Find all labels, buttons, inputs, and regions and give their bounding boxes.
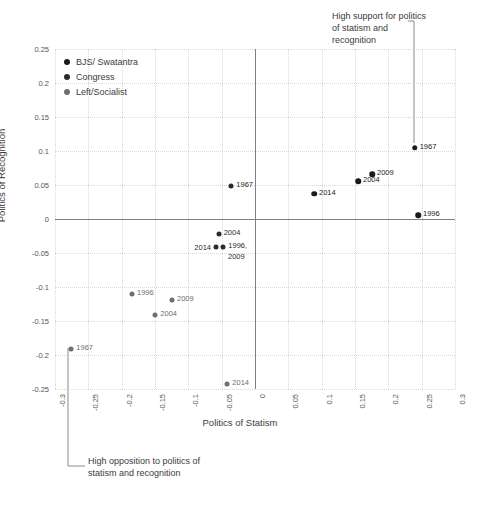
data-point-label: 2004 (363, 175, 380, 184)
x-tick-label: -0.1 (191, 394, 200, 407)
data-point[interactable] (415, 213, 421, 219)
data-point-label: 1967 (236, 180, 253, 189)
data-point-label: 1996 (137, 288, 154, 297)
y-tick-label: -0.1 (36, 283, 49, 292)
data-point[interactable] (225, 381, 230, 386)
scatter-chart: High support for politics of statism and… (0, 0, 480, 507)
data-point-label: 2014 (194, 243, 211, 252)
data-point-label: 1967 (420, 141, 437, 150)
data-point-label: 1996 (423, 209, 440, 218)
data-point-label: 2009 (228, 252, 245, 261)
gridline-horizontal (55, 389, 455, 390)
data-point[interactable] (130, 292, 135, 297)
y-tick-label: -0.05 (32, 249, 49, 258)
data-point-label: 2004 (224, 228, 241, 237)
legend-marker-icon (64, 59, 70, 65)
data-point[interactable] (216, 232, 221, 237)
data-point-label: 2014 (232, 377, 249, 386)
legend-marker-icon (64, 89, 70, 95)
data-point[interactable] (412, 145, 418, 151)
x-tick-label: 0.1 (325, 394, 334, 404)
data-point[interactable] (355, 179, 361, 185)
data-point-label: 1996, (228, 241, 247, 250)
x-tick-label: 0 (258, 394, 267, 398)
data-point-label: 2004 (160, 308, 177, 317)
x-tick-label: -0.25 (91, 394, 100, 411)
data-point[interactable] (153, 312, 158, 317)
gridline-vertical (455, 49, 456, 389)
data-point[interactable] (221, 245, 226, 250)
y-tick-label: -0.15 (32, 317, 49, 326)
x-tick-label: -0.15 (158, 394, 167, 411)
legend-item[interactable]: Left/Socialist (64, 84, 138, 99)
data-point-label: 2009 (177, 294, 194, 303)
data-point[interactable] (214, 245, 219, 250)
x-tick-label: 0.25 (425, 394, 434, 409)
x-tick-label: 0.2 (391, 394, 400, 404)
data-point[interactable] (170, 298, 175, 303)
x-tick-label: -0.05 (225, 394, 234, 411)
legend-item-label: BJS/ Swatantra (76, 57, 138, 67)
y-axis-title: Politics of Recognition (0, 76, 7, 276)
annotation-high-support: High support for politics of statism and… (332, 10, 428, 46)
x-tick-label: -0.2 (125, 394, 134, 407)
y-tick-label: 0 (45, 215, 49, 224)
data-point[interactable] (229, 184, 234, 189)
y-tick-label: 0.25 (34, 45, 49, 54)
x-tick-label: 0.05 (291, 394, 300, 409)
plot-area: 0.250.20.150.10.050-0.05-0.1-0.15-0.2-0.… (55, 49, 455, 389)
y-tick-label: 0.1 (39, 147, 49, 156)
legend-marker-icon (64, 74, 70, 80)
legend-item[interactable]: BJS/ Swatantra (64, 54, 138, 69)
x-axis-title: Politics of Statism (0, 417, 480, 428)
y-tick-label: 0.05 (34, 181, 49, 190)
x-tick-label: 0.15 (358, 394, 367, 409)
data-point-label: 2014 (319, 187, 336, 196)
x-tick-label: -0.3 (58, 394, 67, 407)
data-point[interactable] (311, 191, 317, 197)
y-tick-label: -0.25 (32, 385, 49, 394)
data-point-label: 1967 (76, 343, 93, 352)
y-tick-label: -0.2 (36, 351, 49, 360)
x-axis-zero-line (55, 219, 455, 220)
x-tick-label: 0.3 (458, 394, 467, 404)
legend-item-label: Congress (76, 72, 115, 82)
annotation-high-opposition: High opposition to politics of statism a… (88, 455, 218, 479)
legend-item-label: Left/Socialist (76, 87, 127, 97)
y-tick-label: 0.2 (39, 79, 49, 88)
y-tick-label: 0.15 (34, 113, 49, 122)
legend-item[interactable]: Congress (64, 69, 138, 84)
data-point[interactable] (69, 347, 74, 352)
legend: BJS/ SwatantraCongressLeft/Socialist (64, 54, 138, 99)
